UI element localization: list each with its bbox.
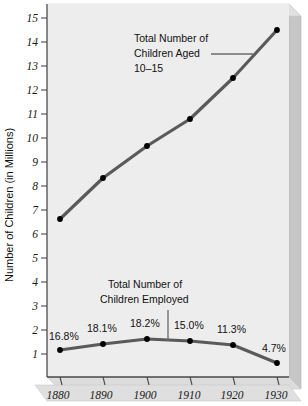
y-tick-marks: [41, 18, 47, 354]
x-tick-label-1900: 1900: [134, 389, 157, 401]
y-tick-label: 2: [32, 324, 38, 336]
x-tick-label-1920: 1920: [221, 389, 244, 401]
annotation-children-employed-line2: Children Employed: [100, 293, 189, 305]
chart-right-wall: [289, 4, 301, 389]
line-chart-3d: 15 14 13 12 11 10 9 8 7 6 5 4 3 2 1 Numb…: [0, 0, 308, 406]
y-tick-label: 4: [32, 276, 38, 288]
y-tick-label: 11: [27, 108, 38, 120]
point-label-1880: 16.8%: [49, 330, 79, 342]
point-label-1910: 15.0%: [174, 319, 204, 331]
y-tick-label: 14: [27, 36, 39, 48]
x-tick-label-1880: 1880: [47, 389, 70, 401]
y-tick-label: 13: [27, 60, 39, 72]
annotation-children-aged-line2: Children Aged: [134, 47, 200, 59]
y-tick-label: 6: [32, 228, 38, 240]
x-tick-label-1910: 1910: [178, 389, 201, 401]
y-tick-label: 9: [32, 156, 38, 168]
point-label-1930: 4.7%: [262, 342, 286, 354]
y-tick-label: 1: [32, 348, 38, 360]
y-axis-title: Number of Children (in Millions): [3, 128, 15, 282]
y-tick-label: 3: [31, 300, 38, 312]
x-tick-label-1890: 1890: [90, 389, 113, 401]
point-label-1920: 11.3%: [217, 323, 246, 335]
annotation-children-aged-line3: 10–15: [134, 62, 163, 74]
point-label-1900: 18.2%: [130, 317, 160, 329]
y-tick-label: 7: [32, 204, 39, 216]
annotation-children-aged-line1: Total Number of: [134, 32, 208, 44]
chart-base-label-band: [35, 385, 301, 401]
point-label-1890: 18.1%: [87, 322, 117, 334]
chart-canvas: 15 14 13 12 11 10 9 8 7 6 5 4 3 2 1 Numb…: [0, 0, 308, 406]
y-tick-label: 10: [27, 132, 39, 144]
y-tick-label: 15: [27, 12, 39, 24]
y-tick-label: 5: [32, 252, 38, 264]
annotation-children-employed-line1: Total Number of: [108, 278, 182, 290]
y-tick-label: 8: [32, 180, 38, 192]
y-tick-label: 12: [27, 84, 39, 96]
x-tick-label-1930: 1930: [265, 389, 288, 401]
